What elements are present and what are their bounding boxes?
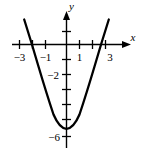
y-axis-name-label: y [68, 0, 74, 12]
y-tick-label-minus6: −6 [48, 131, 60, 143]
graph-canvas: −3 −1 1 3 −2 −6 x y [0, 0, 142, 150]
x-tick-label-minus3: −3 [14, 51, 26, 63]
parabola-figure: −3 −1 1 3 −2 −6 x y [0, 0, 142, 150]
x-axis [12, 41, 131, 48]
x-tick-label-minus1: −1 [40, 51, 52, 63]
y-tick-label-minus2: −2 [47, 69, 59, 81]
x-tick-label-pos3: 3 [107, 51, 113, 63]
x-axis-name-label: x [130, 31, 136, 43]
y-axis-arrowhead [63, 11, 70, 20]
x-tick-label-pos1: 1 [77, 51, 83, 63]
